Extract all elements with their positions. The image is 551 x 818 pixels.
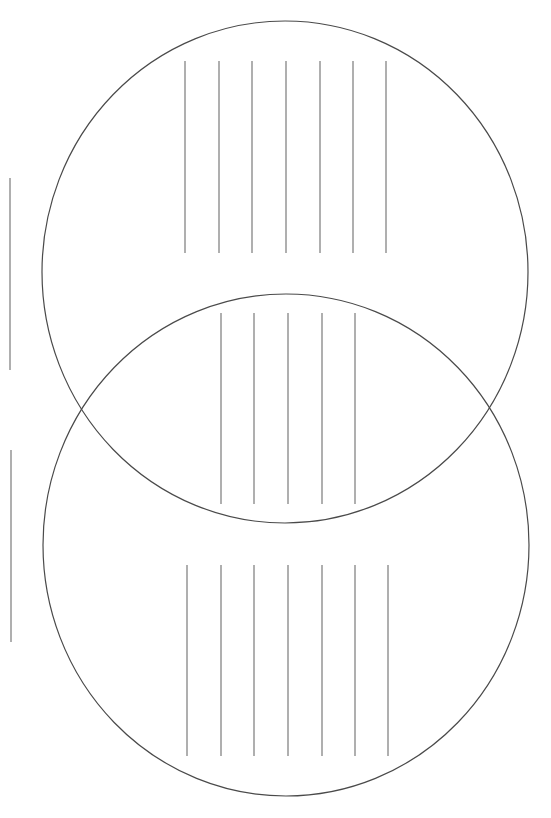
label-lines bbox=[10, 178, 11, 642]
top-circle-lines bbox=[185, 61, 386, 253]
writing-lines bbox=[185, 61, 388, 756]
bottom-circle bbox=[43, 294, 529, 796]
bottom-circle-lines bbox=[187, 565, 388, 756]
venn-diagram-worksheet bbox=[0, 0, 551, 818]
overlap-lines bbox=[221, 313, 355, 504]
top-circle bbox=[42, 21, 528, 523]
